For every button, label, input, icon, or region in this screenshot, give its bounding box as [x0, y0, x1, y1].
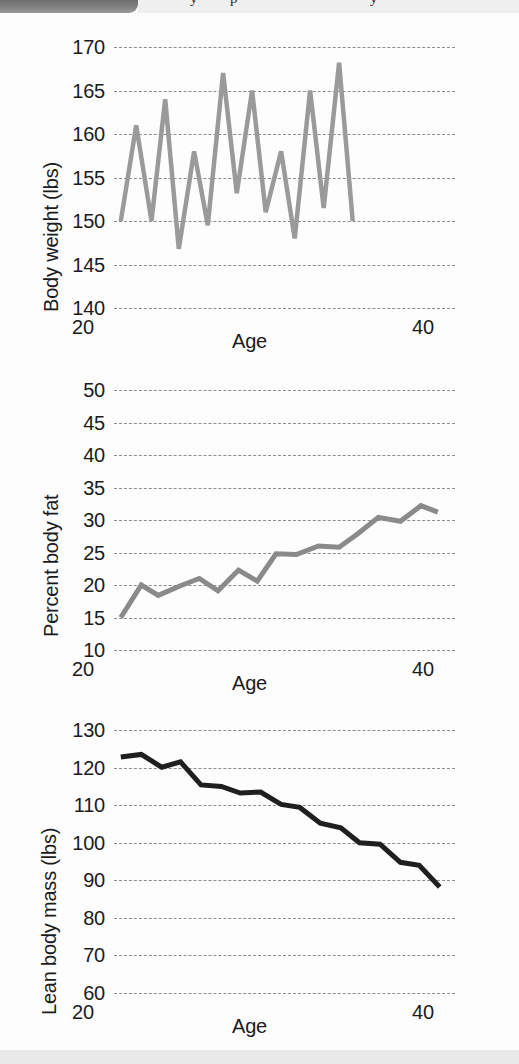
y-tick-label: 155	[47, 166, 105, 189]
series-path-percent-body-fat	[121, 506, 438, 618]
y-tick-label: 130	[47, 719, 105, 742]
y-tick-label: 165	[47, 79, 105, 102]
x-axis-label-body-weight: Age	[232, 330, 267, 353]
y-tick-label: 40	[47, 444, 105, 467]
figure-page: y p y Body weight (lbs) 1701651601551501…	[0, 0, 519, 1064]
header-title-glyph-2: p	[230, 0, 238, 6]
y-tick-label: 15	[47, 606, 105, 629]
y-tick-label: 70	[47, 944, 105, 967]
x-tick-min-percent-body-fat: 20	[72, 658, 94, 681]
y-tick-label: 50	[47, 379, 105, 402]
header-tab	[0, 0, 138, 13]
plot-area-body-weight: Body weight (lbs) 170165160155150145140 …	[0, 16, 519, 355]
x-tick-min-body-weight: 20	[72, 316, 94, 339]
chart-lean-body-mass: Lean body mass (lbs) 1301201101009080706…	[0, 700, 519, 1050]
y-tick-label: 45	[47, 411, 105, 434]
series-path-lean-body-mass	[121, 754, 440, 887]
y-tick-label: 35	[47, 476, 105, 499]
plot-area-percent-body-fat: Percent body fat 504540353025201510 20 4…	[0, 355, 519, 700]
y-tick-label: 25	[47, 541, 105, 564]
y-tick-label: 170	[47, 36, 105, 59]
y-tick-label: 110	[47, 794, 105, 817]
y-tick-label: 80	[47, 906, 105, 929]
x-tick-max-body-weight: 40	[412, 316, 434, 339]
y-tick-label: 150	[47, 210, 105, 233]
y-tick-label: 30	[47, 509, 105, 532]
x-axis-label-lean-body-mass: Age	[232, 1015, 267, 1038]
y-tick-label: 100	[47, 831, 105, 854]
header-title-glyph-1: y	[190, 0, 198, 6]
y-tick-label: 20	[47, 574, 105, 597]
x-axis-label-percent-body-fat: Age	[232, 672, 267, 695]
page-footer-band	[0, 1050, 519, 1064]
x-tick-max-percent-body-fat: 40	[412, 658, 434, 681]
series-path-body-weight	[121, 63, 353, 249]
header-title-glyph-3: y	[370, 0, 378, 6]
y-tick-label: 120	[47, 756, 105, 779]
y-tick-label: 160	[47, 123, 105, 146]
y-tick-label: 145	[47, 253, 105, 276]
chart-percent-body-fat: Percent body fat 504540353025201510 20 4…	[0, 355, 519, 700]
page-header-band: y p y	[0, 0, 519, 16]
y-tick-label: 90	[47, 869, 105, 892]
x-tick-max-lean-body-mass: 40	[412, 1001, 434, 1024]
plot-area-lean-body-mass: Lean body mass (lbs) 1301201101009080706…	[0, 700, 519, 1050]
x-tick-min-lean-body-mass: 20	[72, 1001, 94, 1024]
chart-body-weight: Body weight (lbs) 170165160155150145140 …	[0, 16, 519, 355]
